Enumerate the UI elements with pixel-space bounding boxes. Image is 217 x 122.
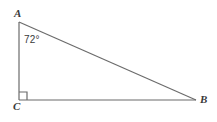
vertex-label-b: B: [200, 94, 207, 105]
vertex-label-c: C: [13, 101, 20, 112]
triangle-diagram: [0, 0, 217, 122]
right-angle-marker-icon: [19, 92, 27, 100]
segment-ab: [19, 22, 196, 100]
geometry-figure: A C B 72°: [0, 0, 217, 122]
vertex-label-a: A: [14, 8, 21, 19]
angle-measure-label-a: 72°: [24, 34, 40, 45]
